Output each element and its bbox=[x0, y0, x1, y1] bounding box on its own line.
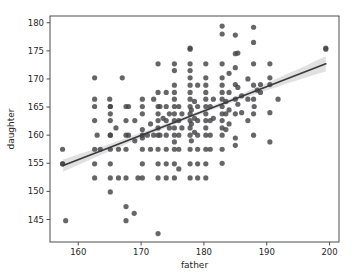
x-axis-label: father bbox=[181, 260, 208, 270]
scatter-point bbox=[203, 111, 208, 116]
y-tick-label: 170 bbox=[28, 74, 44, 84]
y-tick-label: 145 bbox=[28, 215, 44, 225]
y-tick-label: 155 bbox=[28, 158, 44, 168]
scatter-point bbox=[108, 104, 113, 109]
scatter-point bbox=[95, 133, 100, 138]
x-tick-label: 170 bbox=[133, 247, 149, 257]
scatter-point bbox=[172, 161, 177, 166]
scatter-point bbox=[323, 47, 328, 52]
scatter-point bbox=[107, 97, 112, 102]
scatter-point bbox=[176, 166, 181, 171]
scatter-plot: 160170180190200 145150155160165170175180… bbox=[0, 0, 362, 279]
scatter-point bbox=[235, 51, 240, 56]
x-tick-label: 180 bbox=[196, 247, 212, 257]
scatter-point bbox=[108, 161, 113, 166]
scatter-point bbox=[195, 175, 200, 180]
scatter-point bbox=[195, 118, 200, 123]
scatter-point bbox=[223, 127, 228, 132]
scatter-point bbox=[167, 125, 172, 130]
scatter-point bbox=[140, 97, 145, 102]
scatter-point bbox=[172, 90, 177, 95]
scatter-point bbox=[116, 175, 121, 180]
scatter-point bbox=[108, 175, 113, 180]
scatter-point bbox=[203, 83, 208, 88]
scatter-point bbox=[220, 147, 225, 152]
scatter-point bbox=[267, 75, 272, 80]
scatter-point bbox=[108, 111, 113, 116]
scatter-point bbox=[92, 147, 97, 152]
scatter-point bbox=[164, 161, 169, 166]
scatter-point bbox=[233, 135, 238, 140]
scatter-point bbox=[164, 104, 169, 109]
scatter-point bbox=[63, 218, 68, 223]
scatter-point bbox=[92, 175, 97, 180]
scatter-point bbox=[164, 147, 169, 152]
scatter-point bbox=[188, 161, 193, 166]
scatter-point bbox=[203, 75, 208, 80]
scatter-point bbox=[251, 61, 256, 66]
scatter-point bbox=[251, 111, 256, 116]
scatter-point bbox=[176, 104, 181, 109]
scatter-point bbox=[164, 90, 169, 95]
scatter-point bbox=[140, 175, 145, 180]
scatter-point bbox=[164, 133, 169, 138]
scatter-point bbox=[113, 125, 118, 130]
scatter-point bbox=[123, 147, 128, 152]
y-tick-label: 180 bbox=[28, 18, 44, 28]
scatter-point bbox=[220, 61, 225, 66]
scatter-point bbox=[179, 111, 184, 116]
scatter-point bbox=[140, 127, 145, 132]
scatter-point bbox=[151, 97, 156, 102]
scatter-point bbox=[208, 133, 213, 138]
scatter-point bbox=[123, 204, 128, 209]
x-tick-label: 190 bbox=[259, 247, 275, 257]
y-tick-label: 160 bbox=[28, 130, 44, 140]
scatter-point bbox=[239, 110, 244, 115]
scatter-point bbox=[120, 75, 125, 80]
scatter-point bbox=[155, 175, 160, 180]
scatter-point bbox=[208, 147, 213, 152]
scatter-point bbox=[132, 211, 137, 216]
axes-background bbox=[50, 16, 339, 242]
scatter-point bbox=[60, 147, 65, 152]
scatter-point bbox=[157, 104, 162, 109]
scatter-point bbox=[172, 83, 177, 88]
scatter-point bbox=[220, 75, 225, 80]
scatter-point bbox=[172, 139, 177, 144]
scatter-point bbox=[188, 61, 193, 66]
scatter-point bbox=[140, 111, 145, 116]
scatter-point bbox=[211, 97, 216, 102]
scatter-point bbox=[220, 161, 225, 166]
scatter-point bbox=[267, 139, 272, 144]
scatter-point bbox=[188, 175, 193, 180]
scatter-point bbox=[188, 133, 193, 138]
scatter-point bbox=[189, 121, 194, 126]
scatter-point bbox=[233, 65, 238, 70]
scatter-point bbox=[233, 33, 238, 38]
scatter-point bbox=[172, 68, 177, 73]
scatter-point bbox=[188, 83, 193, 88]
x-tick-label: 160 bbox=[70, 247, 86, 257]
scatter-point bbox=[226, 71, 231, 76]
scatter-point bbox=[275, 97, 280, 102]
scatter-point bbox=[126, 133, 131, 138]
scatter-point bbox=[92, 104, 97, 109]
scatter-point bbox=[108, 118, 113, 123]
scatter-point bbox=[188, 47, 193, 52]
scatter-point bbox=[220, 31, 225, 36]
scatter-point bbox=[195, 147, 200, 152]
scatter-point bbox=[176, 133, 181, 138]
scatter-point bbox=[203, 175, 208, 180]
scatter-point bbox=[251, 25, 256, 30]
scatter-point bbox=[157, 133, 162, 138]
scatter-point bbox=[140, 147, 145, 152]
scatter-point bbox=[258, 82, 263, 87]
scatter-point bbox=[251, 97, 256, 102]
scatter-point bbox=[108, 189, 113, 194]
scatter-point bbox=[188, 68, 193, 73]
scatter-point bbox=[172, 61, 177, 66]
scatter-point bbox=[188, 75, 193, 80]
scatter-point bbox=[245, 118, 250, 123]
scatter-point bbox=[148, 121, 153, 126]
scatter-point bbox=[172, 97, 177, 102]
